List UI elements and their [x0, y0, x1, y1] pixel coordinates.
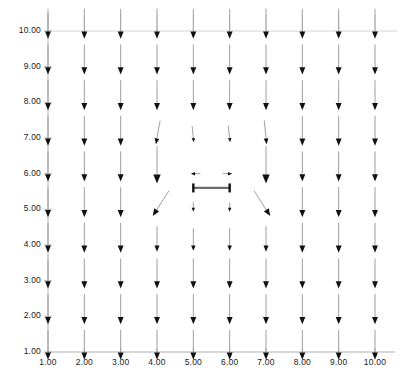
- y-tick-label: 3.00: [24, 275, 41, 285]
- arrow-head: [336, 103, 342, 110]
- vector-arrow: [299, 116, 305, 146]
- vector-arrow: [118, 330, 124, 360]
- arrow-head: [262, 174, 269, 183]
- x-tick-label: 4.00: [140, 357, 174, 367]
- vector-arrow: [336, 187, 342, 217]
- vector-arrow: [228, 126, 231, 142]
- arrow-head: [299, 103, 305, 110]
- vector-arrow: [227, 294, 233, 324]
- vector-arrow: [45, 187, 51, 217]
- arrow-head: [263, 103, 269, 110]
- vector-arrow: [372, 116, 378, 146]
- arrow-head: [372, 317, 378, 324]
- arrow-head: [81, 210, 87, 217]
- vector-arrow: [154, 226, 159, 252]
- arrow-head: [154, 32, 160, 39]
- arrow-head: [227, 245, 231, 250]
- arrow-head: [118, 67, 124, 74]
- arrow-head: [45, 103, 51, 110]
- arrow-head: [336, 246, 342, 253]
- arrow-head: [45, 174, 51, 181]
- arrow-shaft: [264, 120, 266, 139]
- vector-arrow: [45, 223, 51, 253]
- vector-arrow: [45, 116, 51, 146]
- y-tick-label: 9.00: [24, 61, 41, 71]
- x-tick-label: 2.00: [67, 357, 101, 367]
- arrow-head: [81, 32, 87, 39]
- x-tick-label: 6.00: [213, 357, 247, 367]
- arrow-shaft: [228, 126, 230, 139]
- x-tick-label: 5.00: [176, 357, 210, 367]
- vector-arrow: [336, 330, 342, 360]
- vector-arrow: [154, 294, 160, 324]
- arrow-head: [336, 317, 342, 324]
- vector-arrow: [81, 294, 87, 324]
- arrow-head: [372, 67, 378, 74]
- x-tick-label: 7.00: [249, 357, 283, 367]
- vector-arrow: [263, 258, 269, 288]
- vector-arrow: [190, 44, 196, 74]
- arrow-head: [190, 281, 196, 288]
- arrow-head: [336, 174, 342, 181]
- vector-arrow: [372, 9, 378, 39]
- vector-arrow: [118, 44, 124, 74]
- vector-arrow: [263, 294, 269, 324]
- vector-arrow: [228, 202, 231, 212]
- arrow-head: [299, 281, 305, 288]
- arrow-head: [190, 317, 196, 324]
- arrow-head: [299, 67, 305, 74]
- vector-arrow: [336, 116, 342, 146]
- y-tick-label: 8.00: [24, 96, 41, 106]
- vector-arrow: [45, 294, 51, 324]
- arrow-head: [372, 281, 378, 288]
- vector-arrow: [336, 44, 342, 74]
- arrow-head: [81, 174, 87, 181]
- vector-arrow: [191, 228, 195, 251]
- vector-arrow: [299, 80, 305, 110]
- arrow-head: [154, 246, 159, 252]
- arrow-head: [45, 281, 51, 288]
- arrow-head: [299, 317, 305, 324]
- vector-arrow: [299, 223, 305, 253]
- vector-arrow: [299, 330, 305, 360]
- arrow-head: [264, 208, 270, 216]
- arrow-head: [228, 208, 231, 212]
- vector-arrow: [372, 80, 378, 110]
- arrow-head: [81, 67, 87, 74]
- y-tick-label: 6.00: [24, 168, 41, 178]
- vector-arrow: [190, 80, 196, 110]
- vector-arrow: [118, 80, 124, 110]
- arrow-head: [372, 210, 378, 217]
- vector-field-plot: 1.002.003.004.005.006.007.008.009.0010.0…: [0, 0, 407, 381]
- vector-arrow: [299, 151, 305, 181]
- vector-arrow: [254, 191, 270, 216]
- arrow-head: [118, 317, 124, 324]
- vector-arrow: [118, 294, 124, 324]
- arrow-head: [227, 317, 233, 324]
- arrow-head: [336, 139, 342, 146]
- arrow-head: [153, 208, 159, 216]
- arrow-head: [45, 246, 51, 253]
- arrow-head: [45, 210, 51, 217]
- arrow-head: [372, 174, 378, 181]
- vector-arrow: [372, 44, 378, 74]
- arrow-head: [155, 138, 160, 144]
- vector-arrow: [262, 146, 269, 184]
- arrow-head: [81, 317, 87, 324]
- vector-arrow: [299, 44, 305, 74]
- arrow-head: [372, 32, 378, 39]
- vector-arrow: [336, 151, 342, 181]
- vector-arrow: [263, 80, 269, 110]
- arrow-shaft: [156, 191, 169, 211]
- arrow-head: [263, 246, 268, 252]
- vector-arrow: [81, 223, 87, 253]
- arrow-head: [118, 103, 124, 110]
- vector-arrow: [45, 151, 51, 181]
- vector-arrow: [154, 80, 160, 110]
- arrow-head: [45, 317, 51, 324]
- arrow-head: [190, 67, 196, 74]
- vector-arrow: [192, 126, 195, 142]
- vector-arrow: [118, 187, 124, 217]
- vector-arrow: [336, 258, 342, 288]
- x-tick-label: 9.00: [322, 357, 356, 367]
